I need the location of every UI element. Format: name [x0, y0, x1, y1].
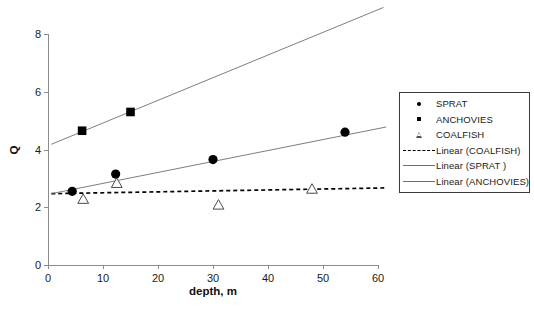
legend-entry-label: Linear (COALFISH) — [436, 145, 521, 156]
y-tick-mark — [44, 150, 48, 151]
plot-area: 02468 0102030405060 — [48, 34, 378, 265]
x-tick-label: 50 — [317, 272, 329, 284]
y-axis-line — [48, 34, 49, 265]
y-tick-label: 8 — [35, 28, 41, 40]
x-tick-label: 20 — [152, 272, 164, 284]
legend-entry: Linear (COALFISH) — [402, 143, 527, 159]
filled-circle-marker-icon — [417, 102, 421, 106]
data-point-sprat — [68, 187, 77, 196]
y-tick-label: 2 — [35, 201, 41, 213]
data-point-anchovies — [78, 126, 87, 135]
y-tick-label: 4 — [35, 144, 41, 156]
legend-key-swatch — [402, 158, 436, 174]
legend-key-swatch — [402, 174, 436, 190]
legend-entry-label: Linear (SPRAT ) — [436, 160, 506, 171]
x-tick-label: 60 — [372, 272, 384, 284]
y-axis-title: Q — [8, 146, 20, 155]
chart-legend: SPRATANCHOVIESCOALFISHLinear (COALFISH)L… — [399, 92, 530, 193]
legend-entry: ANCHOVIES — [402, 112, 527, 128]
dashed-line-swatch-icon — [403, 150, 435, 151]
y-tick-label: 0 — [35, 259, 41, 271]
data-point-anchovies — [126, 108, 135, 117]
legend-key-swatch — [402, 127, 436, 143]
y-tick-mark — [44, 92, 48, 93]
x-tick-mark — [323, 265, 324, 269]
data-point-coalfish — [78, 194, 89, 204]
legend-key-swatch — [402, 96, 436, 112]
legend-key-swatch — [402, 143, 436, 159]
x-tick-mark — [213, 265, 214, 269]
y-tick-label: 6 — [35, 86, 41, 98]
x-tick-mark — [268, 265, 269, 269]
legend-entry: SPRAT — [402, 96, 527, 112]
data-point-sprat — [208, 155, 217, 164]
x-tick-mark — [103, 265, 104, 269]
x-tick-label: 10 — [97, 272, 109, 284]
x-tick-label: 30 — [207, 272, 219, 284]
legend-entry: Linear (SPRAT ) — [402, 158, 527, 174]
x-tick-label: 40 — [262, 272, 274, 284]
open-triangle-marker-icon — [416, 132, 422, 138]
solid-line-swatch-icon — [403, 181, 435, 182]
data-series-layer — [48, 34, 378, 265]
legend-entry-label: Linear (ANCHOVIES) — [436, 176, 529, 187]
chart-figure: 02468 0102030405060 depth, m Q SPRATANCH… — [0, 0, 534, 317]
data-point-sprat — [340, 128, 349, 137]
legend-key-swatch — [402, 112, 436, 128]
trendline-linear-coalfish — [51, 188, 386, 194]
legend-entry-label: SPRAT — [436, 98, 467, 109]
x-tick-label: 0 — [45, 272, 51, 284]
legend-entry-label: COALFISH — [436, 129, 484, 140]
legend-entry-label: ANCHOVIES — [436, 114, 493, 125]
trendline-linear-sprat — [51, 127, 386, 194]
solid-line-swatch-icon — [403, 165, 435, 166]
x-axis-title: depth, m — [189, 285, 237, 297]
legend-entry: COALFISH — [402, 127, 527, 143]
data-point-coalfish — [307, 184, 318, 194]
y-tick-mark — [44, 34, 48, 35]
x-tick-mark — [158, 265, 159, 269]
trendline-linear-anchovies — [51, 7, 383, 144]
x-tick-mark — [378, 265, 379, 269]
x-tick-mark — [48, 265, 49, 269]
data-point-coalfish — [213, 200, 224, 210]
filled-square-marker-icon — [417, 117, 421, 121]
legend-entry: Linear (ANCHOVIES) — [402, 174, 527, 190]
data-point-coalfish — [111, 178, 122, 188]
y-tick-mark — [44, 207, 48, 208]
data-point-sprat — [111, 169, 120, 178]
